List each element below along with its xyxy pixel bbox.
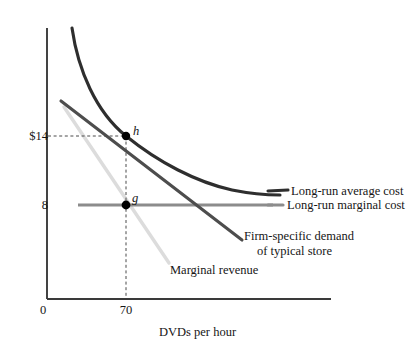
- firm-specific-demand-label-line1: Firm-specific demand: [244, 229, 354, 243]
- point-h-marker: [122, 132, 130, 140]
- y-tick-label-14: $14: [12, 129, 48, 143]
- lrac-legend-leader: [268, 190, 288, 191]
- chart-plot-area: [0, 0, 418, 351]
- long-run-marginal-cost-label: Long-run marginal cost: [287, 198, 405, 212]
- point-g-label: g: [132, 191, 138, 205]
- marginal-revenue-line: [64, 107, 169, 263]
- long-run-average-cost-label: Long-run average cost: [291, 184, 403, 198]
- x-axis-title: DVDs per hour: [159, 325, 236, 339]
- marginal-revenue-label: Marginal revenue: [170, 263, 258, 277]
- point-h-label: h: [133, 124, 139, 138]
- x-tick-label-70: 70: [114, 303, 138, 317]
- x-tick-label-0: 0: [33, 303, 53, 317]
- point-g-marker: [122, 201, 131, 210]
- long-run-average-cost-curve: [72, 28, 280, 195]
- firm-specific-demand-label-line2: of typical store: [257, 244, 332, 258]
- firm-specific-demand-line: [61, 101, 242, 240]
- y-tick-label-8: 8: [12, 198, 48, 212]
- economics-chart-figure: $14 8 0 70 DVDs per hour h g Long-run av…: [0, 0, 418, 351]
